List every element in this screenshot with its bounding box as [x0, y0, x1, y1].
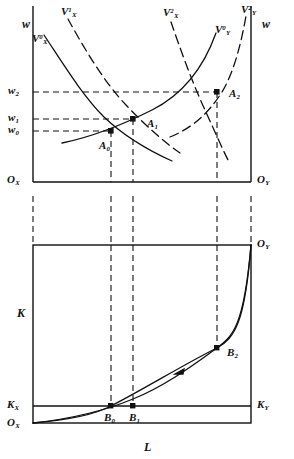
label-axis-K: K: [17, 307, 25, 319]
edgeworth-box: [33, 245, 251, 423]
upper-origin-OY: OY: [257, 174, 269, 187]
label-point-A1: A1: [147, 118, 158, 131]
tick-w0: w0: [8, 124, 19, 137]
label-curve-VX0: V0X: [32, 33, 47, 46]
upper-origin-OX: OX: [7, 174, 20, 187]
label-curve-VY0: V0Y: [215, 24, 230, 37]
label-point-A2: A2: [229, 88, 240, 101]
point-A1-marker: [130, 116, 136, 122]
contract-curve-inner: [33, 245, 251, 423]
label-KX: KX: [7, 399, 19, 412]
point-A2-marker: [214, 89, 220, 95]
label-point-B1: B1: [129, 412, 140, 425]
upper-left-w-label: w: [22, 18, 30, 30]
label-curve-VX2: V2X: [163, 7, 178, 20]
label-axis-L: L: [144, 441, 151, 453]
point-A0-marker: [108, 128, 114, 134]
label-origin-OX-box: OX: [7, 417, 20, 430]
label-point-B2: B2: [227, 347, 238, 360]
tick-w2: w2: [8, 85, 19, 98]
economics-diagram: [0, 0, 294, 459]
label-origin-OY-box: OY: [257, 238, 269, 251]
label-curve-VY2: V2Y: [241, 4, 256, 17]
label-curve-VX1: V1X: [61, 6, 76, 19]
contract-curve-outer: [33, 245, 251, 423]
upper-right-w-label: w: [262, 18, 270, 30]
curve-VY2: [170, 16, 246, 137]
label-point-A0: A0: [99, 140, 110, 153]
label-KY: KY: [257, 399, 269, 412]
label-point-B0: B0: [104, 412, 115, 425]
